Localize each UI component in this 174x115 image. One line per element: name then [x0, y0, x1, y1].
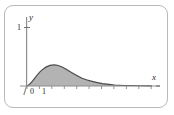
y-tick-label-1: 1 — [17, 24, 21, 32]
y-axis-title: y — [29, 13, 33, 22]
x-axis-title: x — [152, 73, 156, 82]
shaded-area-under-curve — [27, 65, 152, 86]
x-tick-label-1: 1 — [42, 88, 46, 96]
x-tick-label-0: 0 — [30, 88, 34, 96]
figure-container: y x 1 0 1 — [0, 0, 174, 115]
plot-canvas — [0, 0, 174, 115]
y-axis-below-origin — [24, 86, 27, 95]
